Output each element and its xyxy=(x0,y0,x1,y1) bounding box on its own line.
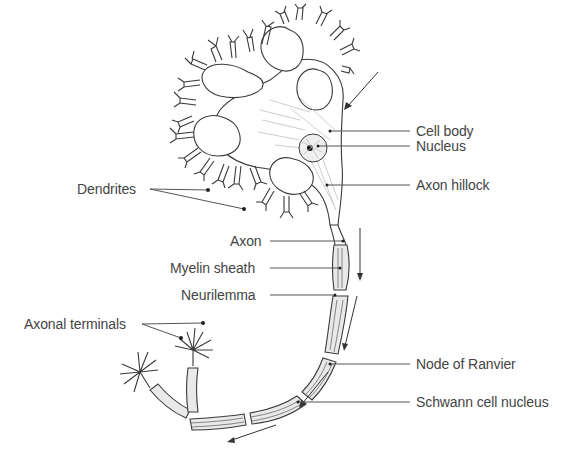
label-nucleus: Nucleus xyxy=(416,138,466,154)
label-neurilemma: Neurilemma xyxy=(181,287,255,303)
label-schwann-cell-nucleus: Schwann cell nucleus xyxy=(416,394,549,410)
label-dendrites: Dendrites xyxy=(77,181,136,197)
neuron-diagram xyxy=(0,0,587,460)
label-axon-hillock: Axon hillock xyxy=(416,177,490,193)
dendrites-tree xyxy=(170,4,360,225)
label-axonal-terminals: Axonal terminals xyxy=(24,316,126,332)
axonal-terminals xyxy=(120,328,213,392)
label-myelin-sheath: Myelin sheath xyxy=(170,260,255,276)
label-cell-body: Cell body xyxy=(416,123,473,139)
label-axon: Axon xyxy=(230,233,262,249)
axon-fiber xyxy=(150,225,349,430)
label-node-of-ranvier: Node of Ranvier xyxy=(416,356,516,372)
